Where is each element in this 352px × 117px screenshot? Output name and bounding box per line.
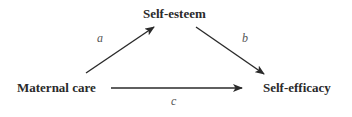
node-self-esteem: Self-esteem	[143, 6, 206, 21]
path-c-label: c	[171, 94, 176, 108]
node-self-efficacy: Self-efficacy	[263, 80, 331, 95]
path-b-label: b	[242, 31, 248, 45]
path-a-label: a	[97, 31, 103, 45]
mediation-diagram: Self-esteem Maternal care Self-efficacy …	[0, 0, 352, 117]
path-b-arrow	[196, 27, 264, 74]
node-maternal-care: Maternal care	[17, 80, 96, 95]
